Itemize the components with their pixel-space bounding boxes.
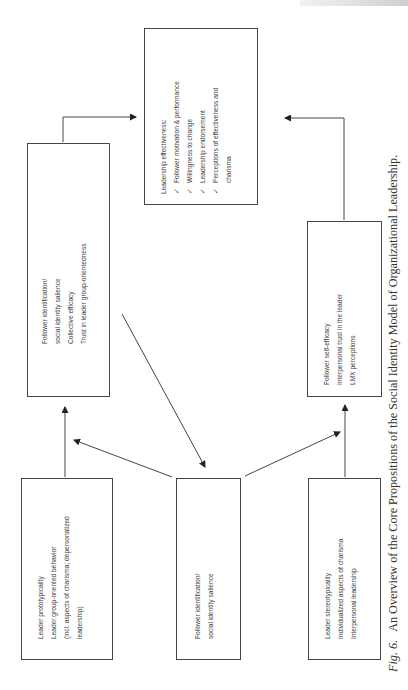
mediator-line: Follower identification/ bbox=[38, 243, 51, 344]
predictor-line: leadership) bbox=[73, 516, 86, 639]
box-leader-prototypicality: Leader prototypicality Leader group-orie… bbox=[21, 478, 113, 660]
effectiveness-title: Leadership effectiveness: bbox=[157, 81, 170, 194]
box-group-mediators: Follower identification/ social identity… bbox=[27, 143, 110, 397]
predictor-line: Leader prototypicality bbox=[34, 516, 47, 639]
predictor-line: Individualized aspects of charisma bbox=[334, 539, 347, 639]
box-leader-stereotypicality: Leader stereotypicality Individualized a… bbox=[308, 478, 381, 660]
arrow-group-mediators-to-identification bbox=[122, 314, 205, 467]
check-icon: ✓ bbox=[183, 183, 196, 194]
figure-label: Fig. 6. bbox=[386, 640, 400, 672]
check-icon: ✓ bbox=[170, 183, 183, 194]
moderator-line: Follower identification/ bbox=[191, 573, 204, 639]
effectiveness-item: Follower motivation & performance bbox=[173, 81, 180, 183]
effectiveness-item: Leadership endorsement bbox=[199, 110, 206, 183]
predictor-line: Leader stereotypicality bbox=[321, 539, 334, 639]
box-follower-identification: Follower identification/ social identity… bbox=[176, 478, 241, 660]
box-individual-mediators: Follower self-efficacy Interpersonal tru… bbox=[307, 221, 382, 397]
check-icon: ✓ bbox=[196, 183, 209, 194]
figure-caption: Fig. 6.An Overview of the Core Propositi… bbox=[386, 155, 401, 672]
box-leadership-effectiveness-text: Leadership effectiveness: ✓Follower moti… bbox=[157, 81, 235, 194]
predictor-line: Interpersonal leadership bbox=[347, 539, 360, 639]
check-icon: ✓ bbox=[209, 183, 222, 194]
box-follower-identification-text: Follower identification/ social identity… bbox=[191, 573, 217, 639]
mediator-line: Trust in leader group-orientedness bbox=[77, 243, 90, 344]
effectiveness-item: Willingness to change bbox=[186, 119, 193, 183]
mediator-line: Collective efficacy bbox=[64, 243, 77, 344]
mediator-line: social identity salience bbox=[51, 243, 64, 344]
mediator-line: LMX perceptions bbox=[346, 294, 359, 385]
box-individual-mediators-text: Follower self-efficacy Interpersonal tru… bbox=[320, 294, 359, 385]
mediator-line: Interpersonal trust in the leader bbox=[333, 294, 346, 385]
box-group-mediators-text: Follower identification/ social identity… bbox=[38, 243, 90, 344]
predictor-line: (incl. aspects of charisma; depersonaliz… bbox=[60, 516, 73, 639]
arrow-individual-mediators-to-effectiveness bbox=[285, 118, 344, 220]
moderator-line: social identity salience bbox=[204, 573, 217, 639]
box-leader-prototypicality-text: Leader prototypicality Leader group-orie… bbox=[34, 516, 86, 639]
predictor-line: Leader group-oriented behavior bbox=[47, 516, 60, 639]
effectiveness-item-continuation: charisma bbox=[222, 81, 235, 194]
box-leadership-effectiveness: Leadership effectiveness: ✓Follower moti… bbox=[144, 28, 258, 205]
effectiveness-item: Perceptions of effectiveness and bbox=[212, 88, 219, 183]
box-leader-stereotypicality-text: Leader stereotypicality Individualized a… bbox=[321, 539, 360, 639]
arrow-identification-to-group-mediators bbox=[74, 440, 172, 477]
mediator-line: Follower self-efficacy bbox=[320, 294, 333, 385]
figure-caption-text: An Overview of the Core Propositions of … bbox=[386, 155, 400, 632]
arrow-identification-to-individual-mediators bbox=[245, 432, 340, 476]
arrow-group-mediators-to-effectiveness bbox=[63, 117, 136, 142]
